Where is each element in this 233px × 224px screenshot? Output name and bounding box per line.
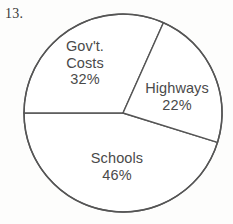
pie-label-gov-costs-name-line1: Gov't. [42, 38, 128, 55]
pie-label-schools: Schools 46% [62, 150, 172, 183]
pie-label-schools-name: Schools [62, 150, 172, 167]
pie-label-gov-costs: Gov't. Costs 32% [42, 38, 128, 88]
pie-label-highways-value: 22% [134, 97, 220, 114]
pie-chart-page: 13. Gov't. Costs 32% Highways 22% School… [0, 0, 233, 224]
pie-label-gov-costs-value: 32% [42, 71, 128, 88]
pie-label-gov-costs-name-line2: Costs [42, 55, 128, 72]
pie-label-schools-value: 46% [62, 167, 172, 184]
pie-label-highways: Highways 22% [134, 80, 220, 113]
pie-label-highways-name: Highways [134, 80, 220, 97]
